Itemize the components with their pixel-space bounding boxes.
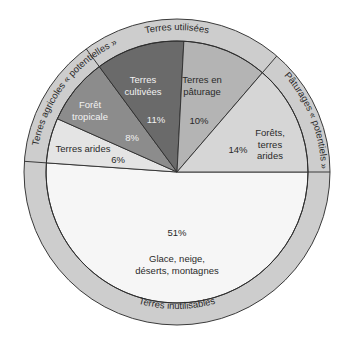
slice-pct-foret: 8% [125,132,139,143]
land-use-pie-chart: Glace, neige,déserts, montagnes51%Terres… [0,0,353,339]
slice-label-cultivees: Terrescultivées [125,74,162,97]
slice-label-paturage: Terres enpâturage [182,74,222,97]
slice-pct-arides: 6% [111,154,125,165]
slice-label-arides: Terres arides [56,143,111,154]
slice-pct-forets_arides: 14% [228,144,248,155]
slice-pct-cultivees: 11% [147,114,166,125]
slice-pct-paturage: 10% [189,115,209,126]
slice-pct-glace: 51% [167,227,187,238]
slice-label-forets_arides: Forêts,terresarides [255,127,285,161]
